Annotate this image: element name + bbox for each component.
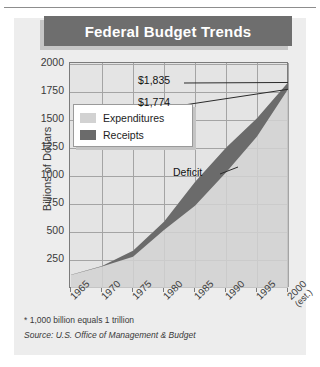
deficit-annotation-label: Deficit xyxy=(173,166,202,178)
expenditures-value-label: $1,835 xyxy=(138,74,170,86)
x-axis-tick-sublabel: (est.) xyxy=(293,286,316,309)
legend-label-receipts: Receipts xyxy=(103,129,144,141)
top-divider-rule xyxy=(4,7,316,8)
y-axis-tick-label: 1000 xyxy=(14,168,64,180)
legend-label-expenditures: Expenditures xyxy=(103,112,164,124)
y-axis-tick-label: 750 xyxy=(14,196,64,208)
leader-line-expenditures xyxy=(184,82,288,83)
y-axis-tick-label: 1750 xyxy=(14,84,64,96)
y-axis-tick-label: 250 xyxy=(14,252,64,264)
chart-card: Federal Budget Trends Billions of Dollar… xyxy=(14,18,306,355)
y-axis-tick-label: 1500 xyxy=(14,112,64,124)
y-axis-tick-label: 1250 xyxy=(14,140,64,152)
y-axis-tick-label: 500 xyxy=(14,224,64,236)
x-axis-tick-label: 2000(est.) xyxy=(285,278,316,309)
chart-legend: Expenditures Receipts xyxy=(73,104,193,147)
legend-swatch-receipts xyxy=(80,130,96,140)
page-title: Federal Budget Trends xyxy=(85,23,252,40)
legend-swatch-expenditures xyxy=(80,113,96,123)
y-axis-tick-label: 2000 xyxy=(14,56,64,68)
source-footnote: Source: U.S. Office of Management & Budg… xyxy=(24,330,196,340)
legend-item-expenditures: Expenditures xyxy=(80,109,186,126)
legend-item-receipts: Receipts xyxy=(80,126,186,143)
unit-footnote: * 1,000 billion equals 1 trillion xyxy=(24,315,134,325)
chart-title-bar: Federal Budget Trends xyxy=(44,16,292,46)
receipts-value-label: $1,774 xyxy=(138,96,170,108)
